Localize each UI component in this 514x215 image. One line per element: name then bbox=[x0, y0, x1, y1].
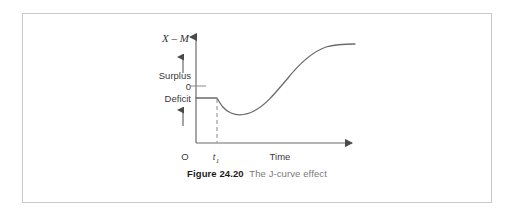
figure-caption-number: Figure 24.20 bbox=[187, 168, 244, 179]
figure-caption: Figure 24.20 The J-curve effect bbox=[0, 168, 514, 179]
t1-subscript: 1 bbox=[216, 157, 220, 165]
figure-container: X – M Surplus 0 Deficit O t1 Time Figure… bbox=[0, 0, 514, 215]
t1-axis-label: t1 bbox=[213, 151, 219, 165]
origin-label: O bbox=[181, 151, 188, 162]
j-curve-plot: X – M Surplus 0 Deficit O t1 Time bbox=[0, 0, 514, 215]
zero-label: 0 bbox=[186, 81, 191, 92]
y-axis-label: X – M bbox=[161, 32, 190, 44]
deficit-label: Deficit bbox=[165, 93, 192, 104]
figure-caption-text: The J-curve effect bbox=[249, 168, 327, 179]
x-axis-label: Time bbox=[270, 151, 291, 162]
surplus-label: Surplus bbox=[159, 70, 191, 81]
j-curve-line bbox=[196, 44, 355, 115]
